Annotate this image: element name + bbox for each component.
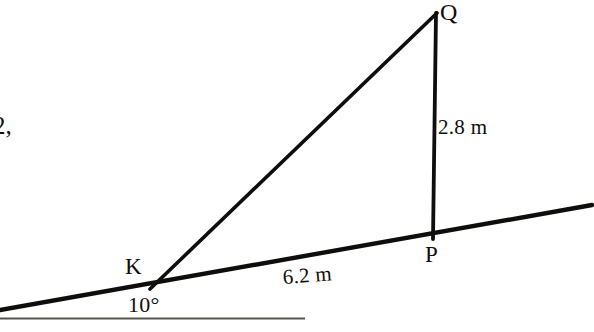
cropped-margin-glyph: 2, xyxy=(0,113,12,138)
vertex-label-q: Q xyxy=(440,0,457,24)
base-measure-label: 6.2 m xyxy=(282,263,333,288)
vertex-label-p: P xyxy=(425,243,438,266)
angle-measure-label: 10° xyxy=(128,294,160,316)
ground-slope-line xyxy=(0,205,592,310)
vertical-line-pq xyxy=(433,13,436,239)
vertex-label-k: K xyxy=(125,255,142,278)
height-measure-label: 2.8 m xyxy=(438,117,487,138)
hypotenuse-line-kq xyxy=(150,13,437,289)
geometry-figure: 2, Q 2.8 m P 6.2 m K 10° xyxy=(0,0,594,332)
